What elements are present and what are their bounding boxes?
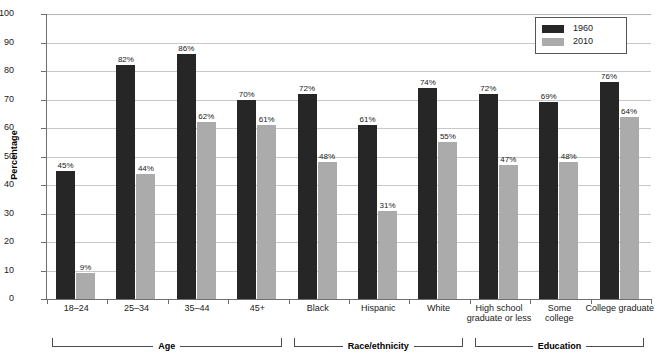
y-axis-tick-label: 70 — [0, 95, 14, 104]
y-axis-tick-label: 0 — [0, 294, 14, 303]
plot-area: 45%9%82%44%86%62%70%61%72%48%61%31%74%55… — [46, 14, 651, 300]
bar-1960[interactable]: 74% — [418, 88, 437, 299]
bar-group: 76%64% — [591, 14, 651, 299]
bar-group: 69%48% — [530, 14, 590, 299]
legend-swatch-1960-icon — [542, 25, 564, 33]
bar-1960[interactable]: 70% — [237, 100, 256, 300]
bar-2010[interactable]: 62% — [197, 122, 216, 299]
bar-value-label: 47% — [500, 155, 516, 164]
bar-value-label: 69% — [541, 92, 557, 101]
bar-value-label: 45% — [57, 161, 73, 170]
group-bracket-label-text: Education — [533, 341, 587, 351]
bar-group: 72%47% — [470, 14, 530, 299]
bar-value-label: 72% — [299, 84, 315, 93]
legend-swatch-2010-icon — [542, 38, 564, 46]
bar-group: 70%61% — [228, 14, 288, 299]
legend: 1960 2010 — [535, 17, 627, 54]
y-axis-tick-label: 40 — [0, 180, 14, 189]
bar-2010[interactable]: 64% — [620, 117, 639, 299]
bar-group: 61%31% — [349, 14, 409, 299]
category-label-line: College graduate — [580, 303, 660, 313]
legend-item[interactable]: 2010 — [542, 35, 620, 48]
y-axis-tick-label: 90 — [0, 38, 14, 47]
bar-value-label: 82% — [118, 55, 134, 64]
bar-value-label: 9% — [80, 263, 92, 272]
bar-group: 74%55% — [409, 14, 469, 299]
bar-value-label: 48% — [561, 152, 577, 161]
bar-value-label: 70% — [239, 90, 255, 99]
y-axis-tick-label: 80 — [0, 66, 14, 75]
bar-value-label: 72% — [480, 84, 496, 93]
bar-value-label: 55% — [440, 132, 456, 141]
bar-2010[interactable]: 44% — [136, 174, 155, 299]
bar-value-label: 44% — [138, 164, 154, 173]
bar-value-label: 61% — [259, 115, 275, 124]
bar-chart: Percentage 0102030405060708090100 45%9%8… — [0, 0, 665, 360]
bar-1960[interactable]: 45% — [56, 171, 75, 299]
bar-2010[interactable]: 55% — [438, 142, 457, 299]
bar-1960[interactable]: 82% — [116, 65, 135, 299]
bar-1960[interactable]: 72% — [298, 94, 317, 299]
bar-1960[interactable]: 69% — [539, 102, 558, 299]
y-axis-tick-label: 60 — [0, 123, 14, 132]
bar-2010[interactable]: 31% — [378, 211, 397, 299]
bar-1960[interactable]: 76% — [600, 82, 619, 299]
bar-2010[interactable]: 47% — [499, 165, 518, 299]
bar-2010[interactable]: 61% — [257, 125, 276, 299]
group-bracket-label-text: Age — [153, 341, 180, 351]
bar-value-label: 64% — [621, 107, 637, 116]
bar-1960[interactable]: 86% — [177, 54, 196, 299]
bar-1960[interactable]: 72% — [479, 94, 498, 299]
bar-group: 86%62% — [168, 14, 228, 299]
bar-value-label: 61% — [359, 115, 375, 124]
y-axis-tick-label: 10 — [0, 266, 14, 275]
bar-2010[interactable]: 48% — [559, 162, 578, 299]
bar-2010[interactable]: 48% — [318, 162, 337, 299]
category-label-line: college — [519, 313, 599, 323]
bar-value-label: 76% — [601, 72, 617, 81]
y-axis-tick-label: 30 — [0, 209, 14, 218]
y-axis-tick-label: 20 — [0, 237, 14, 246]
bar-group: 45%9% — [47, 14, 107, 299]
legend-label: 1960 — [573, 24, 593, 33]
group-bracket-label: Race/ethnicity — [294, 341, 463, 351]
group-bracket-label: Education — [475, 341, 644, 351]
bar-group: 82%44% — [107, 14, 167, 299]
group-bracket-label-text: Race/ethnicity — [343, 341, 414, 351]
bar-1960[interactable]: 61% — [358, 125, 377, 299]
bar-value-label: 74% — [420, 78, 436, 87]
bar-2010[interactable]: 9% — [76, 273, 95, 299]
bar-value-label: 48% — [319, 152, 335, 161]
bar-value-label: 62% — [198, 112, 214, 121]
y-axis-tick-label: 50 — [0, 152, 14, 161]
y-axis-tick-label: 100 — [0, 9, 14, 18]
bar-value-label: 31% — [379, 201, 395, 210]
group-bracket-label: Age — [52, 341, 282, 351]
bar-value-label: 86% — [178, 44, 194, 53]
legend-label: 2010 — [573, 37, 593, 46]
legend-item[interactable]: 1960 — [542, 22, 620, 35]
category-label: College graduate — [580, 303, 660, 313]
bar-group: 72%48% — [289, 14, 349, 299]
